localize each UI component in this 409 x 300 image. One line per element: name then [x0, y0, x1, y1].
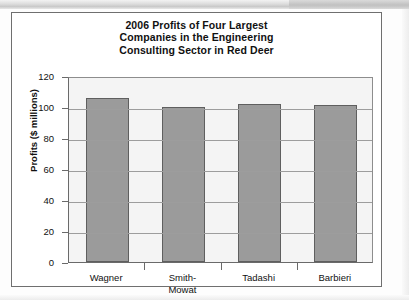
- scan-artifact-band-right: [289, 0, 409, 9]
- chart-card: 2006 Profits of Four LargestCompanies in…: [11, 12, 382, 287]
- x-tick-mark-1: [144, 263, 145, 270]
- y-tick-label-0: 0: [20, 257, 54, 268]
- x-axis-label-line-2: Mowat: [144, 284, 220, 296]
- x-axis-label-line-1: Wagner: [68, 272, 144, 284]
- x-axis-label-line-1: Barbieri: [297, 272, 373, 284]
- y-tick-mark-0: [62, 263, 68, 264]
- y-tick-mark-100: [62, 108, 68, 109]
- bar: [86, 98, 129, 262]
- y-tick-mark-120: [62, 77, 68, 78]
- x-tick-mark-2: [221, 263, 222, 270]
- gridline-80: [69, 140, 372, 141]
- scanned-page: 2006 Profits of Four LargestCompanies in…: [0, 0, 409, 300]
- gridline-40: [69, 202, 372, 203]
- gridline-100: [69, 109, 372, 110]
- x-axis-label-wagner: Wagner: [68, 272, 144, 284]
- y-tick-label-80: 80: [20, 133, 54, 144]
- y-tick-mark-60: [62, 170, 68, 171]
- x-axis-label-smith-mowat: Smith-Mowat: [144, 272, 220, 295]
- plot-wrapper: Profits ($ millions) 020406080100120 Wag…: [12, 13, 383, 288]
- x-axis-label-barbieri: Barbieri: [297, 272, 373, 284]
- y-tick-label-40: 40: [20, 195, 54, 206]
- bar: [314, 105, 357, 262]
- page-edge-right: [402, 9, 409, 300]
- x-axis-label-line-1: Smith-: [144, 272, 220, 284]
- page-edge-bottom: [0, 295, 409, 300]
- gridline-60: [69, 171, 372, 172]
- y-tick-label-100: 100: [20, 102, 54, 113]
- y-tick-mark-80: [62, 139, 68, 140]
- gridline-20: [69, 233, 372, 234]
- bar: [238, 104, 281, 262]
- y-tick-label-20: 20: [20, 226, 54, 237]
- y-tick-mark-40: [62, 201, 68, 202]
- plot-area: [68, 77, 373, 263]
- x-tick-mark-3: [297, 263, 298, 270]
- y-tick-label-120: 120: [20, 71, 54, 82]
- x-axis-label-tadashi: Tadashi: [221, 272, 297, 284]
- y-tick-label-60: 60: [20, 164, 54, 175]
- x-axis-label-line-1: Tadashi: [221, 272, 297, 284]
- bar: [162, 107, 205, 262]
- y-tick-mark-20: [62, 232, 68, 233]
